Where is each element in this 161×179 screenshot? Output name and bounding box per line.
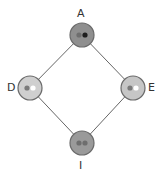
- node-d: [18, 76, 42, 100]
- node-dot-icon: [82, 32, 87, 37]
- node-dot-icon: [133, 85, 138, 90]
- node-dot-icon: [127, 85, 132, 90]
- node-a: [70, 23, 94, 47]
- label-d: D: [7, 82, 15, 93]
- node-circle: [70, 131, 94, 155]
- node-i: [70, 131, 94, 155]
- node-circle: [18, 76, 42, 100]
- label-i: I: [79, 160, 82, 171]
- label-a: A: [77, 8, 85, 19]
- node-dot-icon: [24, 85, 29, 90]
- node-dot-icon: [76, 32, 81, 37]
- node-circle: [121, 76, 145, 100]
- label-e: E: [148, 82, 155, 93]
- nodes: [18, 23, 145, 155]
- node-e: [121, 76, 145, 100]
- node-dot-icon: [30, 85, 35, 90]
- lattice-diagram: [0, 0, 161, 179]
- node-dot-icon: [82, 140, 87, 145]
- node-circle: [70, 23, 94, 47]
- node-dot-icon: [76, 140, 81, 145]
- edges: [30, 35, 133, 143]
